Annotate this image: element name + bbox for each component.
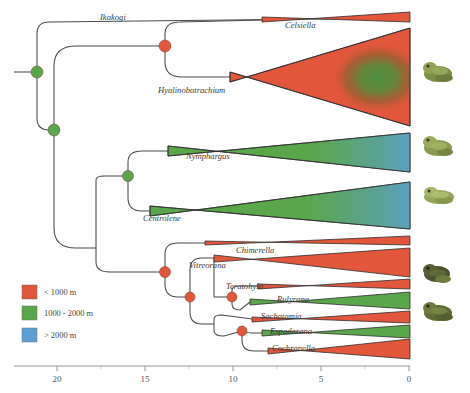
taxon-label-ikakogi: Ikakogi: [99, 12, 126, 22]
legend-label-mid: 1000 - 2000 m: [44, 309, 94, 318]
branch-celsiella: [165, 20, 262, 46]
node-n3[interactable]: [159, 40, 171, 52]
node-n8[interactable]: [237, 326, 247, 336]
branch-nymphargus: [128, 151, 168, 176]
frog-photo-1: [423, 62, 453, 82]
branch-n2-to-centroleninae: [54, 130, 96, 248]
branch-n6-down: [190, 297, 214, 324]
taxon-label-rulyrana: Rulyrana: [276, 294, 309, 304]
taxon-label-vitreorana: Vitreorana: [189, 260, 226, 270]
frog-photo-2: [423, 136, 453, 156]
axis-label-15: 15: [141, 374, 151, 384]
legend-label-low: < 1000 m: [44, 288, 77, 297]
legend-label-high: > 2000 m: [44, 331, 77, 340]
taxon-label-teratohyla: Teratohyla: [226, 281, 263, 291]
branch-root-to-n2: [37, 72, 54, 130]
triangle-teratohyla: [258, 279, 410, 289]
branch-n2-to-n3: [54, 46, 165, 130]
branch-centrolene: [128, 176, 150, 211]
node-n5[interactable]: [160, 267, 171, 278]
centrolene-high-elevation-band: [150, 180, 410, 232]
legend-swatch-high: [22, 328, 37, 342]
taxon-label-cochranella: Cochranella: [272, 343, 315, 353]
hyalinobatrachium-elevation-blob: [330, 42, 426, 114]
triangle-rulyrana: [250, 292, 410, 309]
axis-label-0: 0: [407, 374, 412, 384]
frog-photo-3: [424, 187, 454, 204]
triangle-chimerella: [205, 236, 410, 245]
legend-swatch-mid: [22, 306, 37, 320]
node-root[interactable]: [31, 66, 43, 78]
axis-label-20: 20: [53, 374, 63, 384]
branch-hyalinobatrachium: [165, 46, 230, 77]
time-axis: 20 15 10 5 0: [14, 366, 412, 384]
axis-label-5: 5: [319, 374, 324, 384]
branch-to-n5: [96, 248, 165, 272]
taxon-label-espadarana: Espadarana: [269, 326, 312, 336]
node-n4[interactable]: [123, 171, 134, 182]
node-n7[interactable]: [227, 292, 237, 302]
taxon-label-centrolene: Centrolene: [143, 213, 181, 223]
clade-triangles: [150, 12, 426, 359]
legend: < 1000 m 1000 - 2000 m > 2000 m: [22, 285, 94, 342]
taxon-label-celsiella: Celsiella: [285, 20, 316, 30]
node-n2[interactable]: [48, 124, 60, 136]
node-n6[interactable]: [185, 292, 195, 302]
taxon-label-nymphargus: Nymphargus: [185, 151, 230, 161]
figure-canvas: Ikakogi Celsiella Hyalinobatrachium Nymp…: [0, 0, 470, 393]
phylogeny-svg: Ikakogi Celsiella Hyalinobatrachium Nymp…: [0, 0, 470, 393]
taxon-label-sachatamia: Sachatamia: [261, 311, 302, 321]
axis-label-10: 10: [229, 374, 239, 384]
frog-photo-5: [423, 302, 453, 321]
legend-swatch-low: [22, 285, 37, 299]
branch-sachatamia: [214, 315, 252, 324]
frog-photo-4: [423, 264, 451, 283]
taxon-label-hyalinobatrachium: Hyalinobatrachium: [157, 85, 225, 95]
taxon-label-chimerella: Chimerella: [236, 245, 274, 255]
branch-to-n4: [96, 176, 128, 248]
taxon-labels: Ikakogi Celsiella Hyalinobatrachium Nymp…: [99, 12, 316, 353]
frog-photos: [423, 62, 454, 321]
